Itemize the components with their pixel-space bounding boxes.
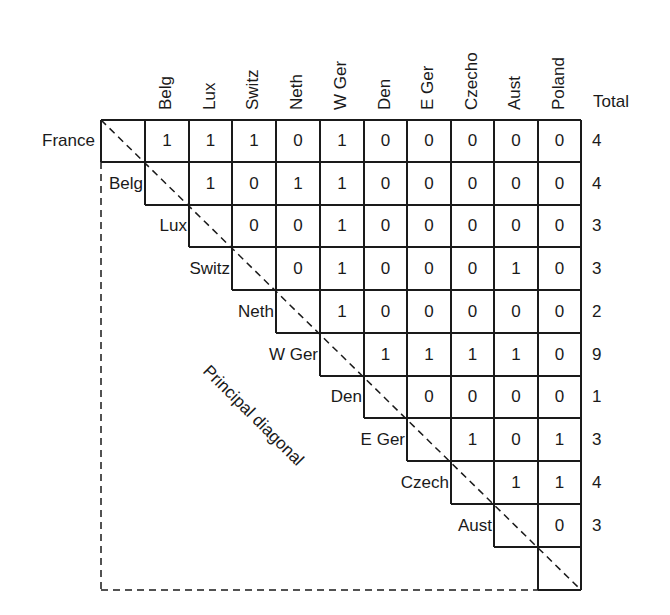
- column-header: Poland: [550, 57, 567, 110]
- column-header: W Ger: [332, 61, 349, 110]
- column-header: Den: [376, 79, 393, 110]
- matrix-cell: 1: [189, 175, 232, 192]
- matrix-cell: 0: [407, 388, 451, 405]
- matrix-cell: 1: [320, 217, 364, 234]
- matrix-cell: 0: [451, 132, 494, 149]
- matrix-cell: 0: [364, 175, 407, 192]
- matrix-cell: 0: [364, 260, 407, 277]
- row-total: 9: [592, 346, 601, 363]
- matrix-cell: 1: [320, 175, 364, 192]
- row-total: 3: [592, 217, 601, 234]
- matrix-cell: 0: [232, 175, 276, 192]
- matrix-cell: 0: [494, 217, 538, 234]
- column-header: Switz: [244, 69, 261, 110]
- row-total: 4: [592, 132, 601, 149]
- matrix-cell: 1: [451, 346, 494, 363]
- matrix-cell: 1: [538, 431, 581, 448]
- matrix-cell: 1: [320, 260, 364, 277]
- connectivity-matrix-diagram: BelgLuxSwitzNethW GerDenE GerCzechoAustP…: [0, 0, 670, 615]
- matrix-cell: 0: [494, 303, 538, 320]
- matrix-cell: 0: [538, 132, 581, 149]
- row-total: 3: [592, 431, 601, 448]
- column-header: E Ger: [419, 66, 436, 110]
- row-total: 4: [592, 175, 601, 192]
- row-label: Lux: [160, 217, 187, 234]
- matrix-cell: 0: [451, 175, 494, 192]
- total-header: Total: [593, 93, 629, 110]
- row-label: Belg: [109, 175, 143, 192]
- row-label: E Ger: [361, 431, 405, 448]
- matrix-cell: 1: [320, 132, 364, 149]
- row-total: 1: [592, 388, 601, 405]
- matrix-cell: 0: [276, 132, 320, 149]
- matrix-cell: 1: [232, 132, 276, 149]
- matrix-cell: 0: [538, 260, 581, 277]
- row-total: 3: [592, 260, 601, 277]
- matrix-cell: 0: [364, 217, 407, 234]
- matrix-cell: 0: [451, 260, 494, 277]
- matrix-cell: 1: [494, 346, 538, 363]
- matrix-cell: 0: [494, 388, 538, 405]
- column-header: Czecho: [463, 52, 480, 110]
- matrix-cell: 1: [364, 346, 407, 363]
- row-label: Den: [331, 388, 362, 405]
- matrix-cell: 0: [538, 346, 581, 363]
- matrix-cell: 0: [494, 132, 538, 149]
- matrix-cell: 1: [538, 474, 581, 491]
- matrix-cell: 1: [407, 346, 451, 363]
- matrix-cell: 0: [232, 217, 276, 234]
- matrix-cell: 0: [451, 303, 494, 320]
- matrix-cell: 0: [364, 132, 407, 149]
- row-total: 2: [592, 303, 601, 320]
- matrix-cell: 0: [538, 388, 581, 405]
- matrix-cell: 0: [538, 175, 581, 192]
- matrix-cell: 0: [451, 217, 494, 234]
- matrix-cell: 0: [407, 175, 451, 192]
- row-label: Czech: [401, 474, 449, 491]
- matrix-cell: 0: [538, 303, 581, 320]
- matrix-cell: 0: [538, 217, 581, 234]
- matrix-cell: 0: [451, 388, 494, 405]
- matrix-cell: 0: [364, 303, 407, 320]
- row-total: 3: [592, 517, 601, 534]
- matrix-cell: 0: [276, 217, 320, 234]
- row-label: Aust: [458, 517, 492, 534]
- column-header: Belg: [157, 76, 174, 110]
- column-header: Lux: [201, 83, 218, 110]
- matrix-cell: 0: [494, 175, 538, 192]
- row-label: Switz: [189, 260, 230, 277]
- matrix-cell: 0: [407, 303, 451, 320]
- matrix-cell: 0: [407, 132, 451, 149]
- column-header: Aust: [506, 76, 523, 110]
- matrix-cell: 1: [276, 175, 320, 192]
- row-label: France: [42, 132, 95, 149]
- matrix-cell: 0: [407, 260, 451, 277]
- matrix-cell: 1: [494, 260, 538, 277]
- matrix-cell: 1: [145, 132, 189, 149]
- matrix-cell: 1: [494, 474, 538, 491]
- matrix-cell: 1: [320, 303, 364, 320]
- matrix-cell: 1: [451, 431, 494, 448]
- matrix-cell: 0: [538, 517, 581, 534]
- matrix-cell: 1: [189, 132, 232, 149]
- row-label: W Ger: [269, 346, 318, 363]
- column-header: Neth: [288, 74, 305, 110]
- matrix-cell: 0: [407, 217, 451, 234]
- matrix-cell: 0: [276, 260, 320, 277]
- row-label: Neth: [238, 303, 274, 320]
- matrix-cell: 0: [494, 431, 538, 448]
- row-total: 4: [592, 474, 601, 491]
